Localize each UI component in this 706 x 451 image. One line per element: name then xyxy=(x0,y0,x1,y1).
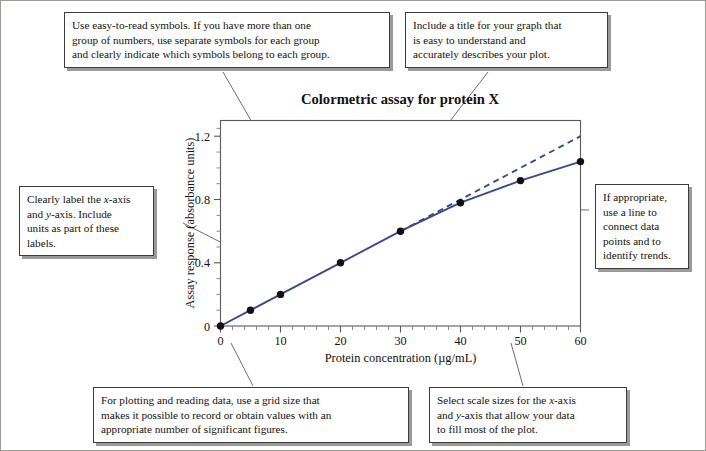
leader-symbols xyxy=(223,72,335,266)
x-axis-italic: x xyxy=(549,394,554,406)
callout-title: Include a title for your graph that is e… xyxy=(405,12,608,68)
callout-line: labels. xyxy=(27,236,146,251)
callout-trend-line: If appropriate, use a line to connect da… xyxy=(595,184,689,269)
callout-line: and y-axis that allow your data xyxy=(437,408,619,423)
callout-line: use a line to xyxy=(603,205,681,220)
data-point xyxy=(577,158,584,165)
x-tick-label-60: 60 xyxy=(574,334,586,348)
x-tick-label-10: 10 xyxy=(274,334,286,348)
leader-title xyxy=(450,72,488,121)
x-tick-label-0: 0 xyxy=(217,334,223,348)
y-tick-label-0-8: 0.8 xyxy=(195,193,210,207)
callout-line: units as part of these xyxy=(27,221,146,236)
data-point xyxy=(247,307,254,314)
callout-axis-labels: Clearly label the x-axis and y-axis. Inc… xyxy=(19,186,154,256)
series-linear-extrapolation xyxy=(401,136,581,231)
annotated-graph-figure: Colormetric assay for protein X xyxy=(0,0,706,451)
callout-line: connect data xyxy=(603,219,681,234)
y-tick-label-1-2: 1.2 xyxy=(195,130,210,144)
callout-line: Use easy-to-read symbols. If you have mo… xyxy=(72,18,382,33)
callout-line: to fill most of the plot. xyxy=(437,422,619,437)
leader-scale-size xyxy=(511,343,523,386)
y-axis-italic: y xyxy=(46,208,51,220)
data-point xyxy=(517,177,524,184)
callout-line: and y-axis. Include xyxy=(27,207,146,222)
series-measured-response xyxy=(221,162,581,326)
callout-line: If appropriate, xyxy=(603,190,681,205)
x-tick-label-30: 30 xyxy=(394,334,406,348)
callout-line: and clearly indicate which symbols belon… xyxy=(72,47,382,62)
y-tick-label-0: 0 xyxy=(204,320,210,334)
x-tick-label-20: 20 xyxy=(334,334,346,348)
callout-symbols: Use easy-to-read symbols. If you have mo… xyxy=(64,12,390,68)
y-axis-ticks xyxy=(214,128,221,326)
data-point xyxy=(397,228,404,235)
series-markers xyxy=(217,158,584,330)
leader-trend-line xyxy=(443,208,589,210)
callout-scale-size: Select scale sizes for the x-axis and y-… xyxy=(429,387,627,443)
callout-line: accurately describes your plot. xyxy=(413,47,600,62)
callout-line: points and to xyxy=(603,234,681,249)
callout-line: For plotting and reading data, use a gri… xyxy=(101,393,401,408)
callout-line: group of numbers, use separate symbols f… xyxy=(72,33,382,48)
callout-line: is easy to understand and xyxy=(413,33,600,48)
callout-line: makes it possible to record or obtain va… xyxy=(101,408,401,423)
data-point xyxy=(217,322,224,329)
x-axis-italic: x xyxy=(104,193,109,205)
chart-title: Colormetric assay for protein X xyxy=(301,91,500,107)
callout-grid-size: For plotting and reading data, use a gri… xyxy=(93,387,409,443)
callout-line: appropriate number of significant figure… xyxy=(101,422,401,437)
x-tick-label-40: 40 xyxy=(454,334,466,348)
data-point xyxy=(337,259,344,266)
callout-line: Clearly label the x-axis xyxy=(27,192,146,207)
data-point xyxy=(277,291,284,298)
leader-axis-labels xyxy=(183,223,230,247)
x-axis-label: Protein concentration (µg/mL) xyxy=(325,351,477,365)
x-axis-ticks xyxy=(221,326,581,333)
callout-line: Include a title for your graph that xyxy=(413,18,600,33)
callout-line: Select scale sizes for the x-axis xyxy=(437,393,619,408)
data-point xyxy=(457,199,464,206)
y-tick-label-0-4: 0.4 xyxy=(195,256,210,270)
callout-line: identify trends. xyxy=(603,248,681,263)
x-tick-label-50: 50 xyxy=(514,334,526,348)
y-axis-label: Assay response (absorbance units) xyxy=(183,137,197,308)
y-axis-italic: y xyxy=(456,409,461,421)
plot-frame xyxy=(221,121,581,327)
leader-grid-size xyxy=(231,343,253,386)
